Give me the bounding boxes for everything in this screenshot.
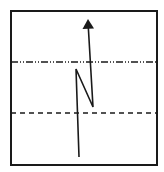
diagram-canvas: [0, 0, 164, 172]
arrowhead-icon: [83, 19, 95, 29]
zigzag-ray-path: [76, 22, 93, 157]
